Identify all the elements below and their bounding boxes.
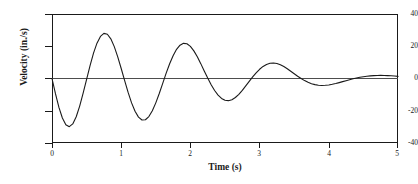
velocity-curve — [52, 33, 398, 126]
y-tick-mark — [45, 111, 52, 112]
x-tick-mark — [397, 143, 398, 148]
x-tick-label: 1 — [109, 150, 133, 158]
y-tick-mark — [45, 78, 52, 79]
x-tick-mark — [121, 143, 122, 148]
y-axis-title: Velocity (in./s) — [19, 2, 29, 112]
x-tick-label: 0 — [40, 150, 64, 158]
x-tick-mark — [52, 143, 53, 148]
velocity-time-chart: 40 20 0 -20 -40 0 1 2 3 4 5 Velocity (in… — [0, 0, 418, 184]
x-tick-mark — [259, 143, 260, 148]
y-tick-mark — [45, 46, 52, 47]
x-tick-label: 3 — [247, 150, 271, 158]
x-tick-mark — [329, 143, 330, 148]
x-tick-label: 5 — [385, 150, 409, 158]
x-tick-label: 2 — [178, 150, 202, 158]
y-tick-mark — [45, 14, 52, 15]
plot-canvas — [52, 14, 398, 143]
y-tick-mark — [45, 143, 52, 144]
x-tick-label: 4 — [317, 150, 341, 158]
x-axis-title: Time (s) — [52, 162, 398, 172]
x-tick-mark — [190, 143, 191, 148]
